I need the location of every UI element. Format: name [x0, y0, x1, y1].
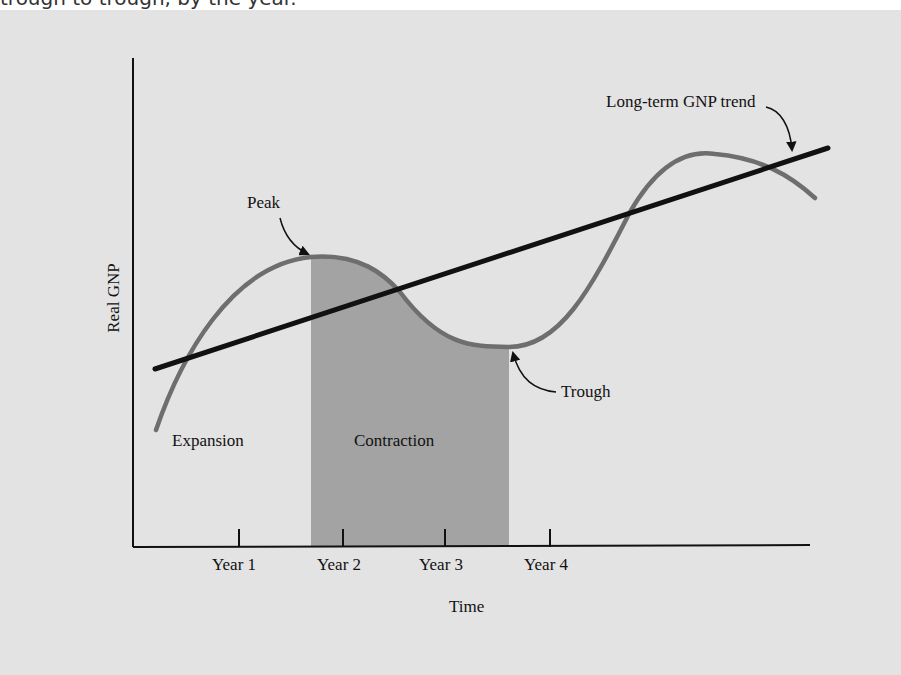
x-axis [133, 545, 810, 547]
tick-label-year-4: Year 4 [524, 555, 568, 575]
expansion-label: Expansion [172, 431, 244, 451]
tick-label-year-3: Year 3 [419, 555, 463, 575]
trough-label: Trough [561, 382, 610, 402]
x-axis-label: Time [449, 597, 484, 617]
trend-label: Long-term GNP trend [606, 92, 756, 112]
contraction-label: Contraction [354, 431, 434, 451]
trend-arrow-icon [766, 107, 792, 150]
tick-label-year-2: Year 2 [317, 555, 361, 575]
tick-label-year-1: Year 1 [212, 555, 256, 575]
peak-label: Peak [247, 193, 280, 213]
peak-arrow-icon [280, 218, 308, 254]
y-axis-label: Real GNP [104, 258, 124, 338]
trough-arrow-icon [513, 353, 556, 392]
